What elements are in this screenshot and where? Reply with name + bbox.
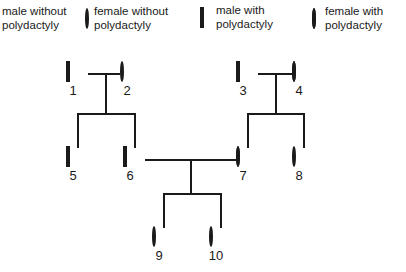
filled-square-icon bbox=[236, 61, 240, 82]
open-circle-icon bbox=[292, 146, 296, 167]
individual-8[interactable]: 8 bbox=[292, 148, 314, 170]
individual-8-label: 8 bbox=[288, 169, 310, 183]
legend-item-male-unaffected: male without polydactyly bbox=[2, 5, 67, 32]
legend-label-male-unaffected: male without polydactyly bbox=[2, 5, 67, 32]
sib-drop-8 bbox=[303, 113, 305, 148]
individual-3-label: 3 bbox=[232, 84, 254, 98]
filled-circle-icon bbox=[312, 10, 316, 28]
filled-square-icon bbox=[200, 9, 204, 27]
filled-circle-icon bbox=[292, 61, 296, 82]
individual-10-label: 10 bbox=[205, 249, 227, 263]
mating-line-1-2 bbox=[88, 73, 120, 75]
individual-7[interactable]: 7 bbox=[236, 148, 258, 170]
sibship-line-7-8 bbox=[247, 113, 303, 115]
individual-6-label: 6 bbox=[119, 169, 141, 183]
descent-line-3-4 bbox=[275, 73, 277, 113]
legend-label-female-affected: female with polydactyly bbox=[325, 5, 383, 32]
individual-2-label: 2 bbox=[116, 84, 138, 98]
sib-drop-10 bbox=[220, 193, 222, 228]
descent-line-6-7 bbox=[190, 159, 192, 193]
individual-9-label: 9 bbox=[148, 249, 170, 263]
sib-drop-9 bbox=[163, 193, 165, 228]
descent-line-1-2 bbox=[105, 73, 107, 113]
legend-item-male-affected: male with polydactyly bbox=[200, 4, 273, 31]
individual-2[interactable]: 2 bbox=[120, 63, 142, 85]
legend-item-female-unaffected: female without polydactyly bbox=[85, 5, 168, 32]
open-square-icon bbox=[66, 61, 70, 82]
sib-drop-7 bbox=[247, 113, 249, 148]
open-circle-icon bbox=[120, 61, 124, 82]
filled-circle-icon bbox=[236, 146, 240, 167]
individual-3[interactable]: 3 bbox=[236, 63, 258, 85]
individual-5[interactable]: 5 bbox=[66, 148, 88, 170]
individual-1[interactable]: 1 bbox=[66, 63, 88, 85]
open-circle-icon bbox=[209, 226, 213, 247]
individual-1-label: 1 bbox=[62, 84, 84, 98]
individual-5-label: 5 bbox=[62, 169, 84, 183]
individual-7-label: 7 bbox=[232, 169, 254, 183]
individual-6[interactable]: 6 bbox=[123, 148, 145, 170]
sibship-line-9-10 bbox=[163, 193, 220, 195]
sib-drop-6 bbox=[134, 113, 136, 148]
open-square-icon bbox=[123, 146, 127, 167]
open-circle-icon bbox=[85, 10, 89, 28]
open-circle-icon bbox=[152, 226, 156, 247]
legend-label-male-affected: male with polydactyly bbox=[216, 4, 273, 31]
individual-4[interactable]: 4 bbox=[292, 63, 314, 85]
sibship-line-5-6 bbox=[77, 113, 135, 115]
pedigree-diagram: male without polydactyly female without … bbox=[0, 0, 406, 272]
legend-item-female-affected: female with polydactyly bbox=[312, 5, 383, 32]
individual-4-label: 4 bbox=[288, 84, 310, 98]
individual-9[interactable]: 9 bbox=[152, 228, 174, 250]
legend-label-female-unaffected: female without polydactyly bbox=[94, 5, 168, 32]
sib-drop-5 bbox=[77, 113, 79, 148]
individual-10[interactable]: 10 bbox=[209, 228, 231, 250]
open-square-icon bbox=[66, 146, 70, 167]
